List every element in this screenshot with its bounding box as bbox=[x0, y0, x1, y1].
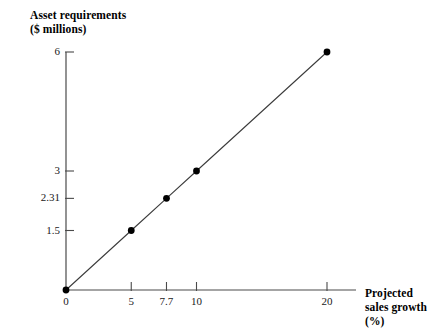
x-tick-label: 0 bbox=[46, 295, 86, 307]
x-tick-label: 20 bbox=[307, 295, 347, 307]
data-point-marker bbox=[324, 49, 331, 56]
x-tick-label: 5 bbox=[111, 295, 151, 307]
y-tick-label: 1.5 bbox=[46, 224, 60, 236]
chart-container: Asset requirements ($ millions) Projecte… bbox=[0, 0, 443, 334]
y-tick-label: 2.31 bbox=[41, 191, 60, 203]
y-tick-label: 3 bbox=[55, 164, 61, 176]
plot-area bbox=[0, 0, 443, 334]
axis-lines bbox=[66, 52, 356, 290]
data-point-marker bbox=[163, 195, 170, 202]
data-point-marker bbox=[193, 168, 200, 175]
y-tick-label: 6 bbox=[55, 45, 61, 57]
x-tick-label: 10 bbox=[177, 295, 217, 307]
data-point-marker bbox=[63, 287, 70, 294]
data-point-marker bbox=[128, 227, 135, 234]
